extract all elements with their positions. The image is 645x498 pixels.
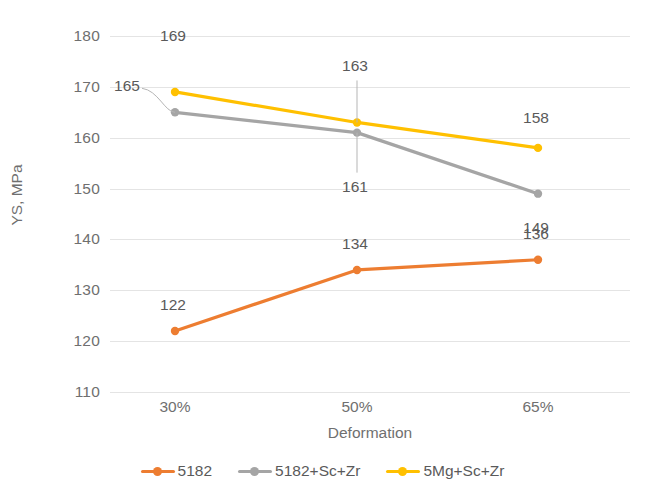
legend-item[interactable]: 5182 xyxy=(141,462,212,480)
data-point-marker xyxy=(534,189,542,197)
data-label: 169 xyxy=(160,27,186,45)
y-axis-tick-label: 120 xyxy=(40,332,100,350)
legend-item[interactable]: 5182+Sc+Zr xyxy=(238,462,360,480)
legend-swatch-icon xyxy=(238,465,272,477)
data-label: 158 xyxy=(523,109,549,127)
series-lines xyxy=(110,36,630,392)
data-point-marker xyxy=(534,144,542,152)
y-axis-tick-label: 170 xyxy=(40,78,100,96)
legend-label: 5Mg+Sc+Zr xyxy=(423,462,504,480)
data-label: 134 xyxy=(342,235,368,253)
x-axis-title: Deformation xyxy=(110,424,630,442)
data-point-marker xyxy=(171,327,179,335)
legend: 51825182+Sc+Zr5Mg+Sc+Zr xyxy=(0,462,645,480)
data-label: 122 xyxy=(160,296,186,314)
y-axis-tick-label: 160 xyxy=(40,129,100,147)
data-point-marker xyxy=(353,266,361,274)
legend-label: 5182 xyxy=(178,462,212,480)
y-axis-tick-label: 180 xyxy=(40,27,100,45)
data-point-marker xyxy=(534,256,542,264)
legend-swatch-icon xyxy=(386,465,420,477)
legend-swatch-icon xyxy=(141,465,175,477)
x-axis-tick-labels: 30%50%65% xyxy=(110,398,630,422)
y-axis-tick-label: 140 xyxy=(40,230,100,248)
y-axis-tick-label: 110 xyxy=(40,383,100,401)
y-axis-tick-labels: 180170160150140130120110 xyxy=(36,36,100,392)
data-label: 163 xyxy=(342,57,368,75)
y-axis-tick-label: 130 xyxy=(40,281,100,299)
data-point-marker xyxy=(171,88,179,96)
y-axis-tick-label: 150 xyxy=(40,180,100,198)
x-axis-tick-label: 65% xyxy=(493,398,583,416)
x-axis-tick-label: 50% xyxy=(312,398,402,416)
legend-item[interactable]: 5Mg+Sc+Zr xyxy=(386,462,504,480)
data-label-leader-line xyxy=(142,88,175,112)
gridline xyxy=(110,392,630,393)
y-axis-title: YS, MPa xyxy=(8,150,26,240)
x-axis-tick-label: 30% xyxy=(130,398,220,416)
plot-area: 122134136165161149169163158 xyxy=(110,36,630,392)
data-label: 165 xyxy=(114,77,140,95)
data-label: 149 xyxy=(523,219,549,237)
line-chart: YS, MPa 180170160150140130120110 1221341… xyxy=(0,0,645,498)
data-label: 161 xyxy=(342,178,368,196)
legend-label: 5182+Sc+Zr xyxy=(275,462,360,480)
